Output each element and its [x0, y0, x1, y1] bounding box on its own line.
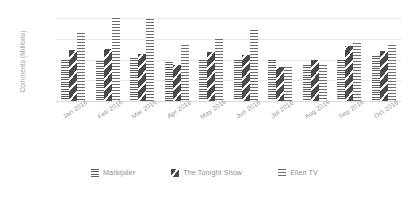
x-label-cell: Jun 2016: [229, 103, 264, 143]
x-axis-labels: Jan 2016Feb 2016Mar 2016Apr 2016May 2016…: [56, 103, 401, 143]
bar: [388, 45, 396, 101]
bar: [276, 67, 284, 101]
bar: [96, 61, 104, 101]
x-label-cell: Feb 2016: [91, 103, 126, 143]
bar: [242, 55, 250, 101]
gridline-baseline: [56, 101, 401, 102]
bar-group: [332, 18, 367, 101]
bar-group: [160, 18, 195, 101]
bar: [380, 51, 388, 101]
bar: [61, 60, 69, 102]
legend-item-0[interactable]: Markiplier: [91, 168, 135, 177]
x-label-cell: Mar 2016: [125, 103, 160, 143]
bar: [250, 30, 258, 101]
hatch-diagonal-swatch: [171, 169, 179, 177]
bar: [173, 65, 181, 101]
bar: [104, 49, 112, 101]
legend-label: Ellen TV: [290, 168, 318, 177]
bar-group: [263, 18, 298, 101]
bar: [165, 62, 173, 101]
x-label-cell: Jul 2016: [263, 103, 298, 143]
bar-chart: Comments (Millions) 100 0 Jan 2016Feb 20…: [0, 0, 409, 212]
x-label-cell: Jan 2016: [56, 103, 91, 143]
hatch-horizontal-swatch: [91, 169, 99, 177]
bar-group: [194, 18, 229, 101]
bar: [311, 60, 319, 102]
bar: [284, 67, 292, 101]
plot-area: [56, 18, 401, 101]
bar-groups: [56, 18, 401, 101]
bar: [345, 46, 353, 101]
legend-label: The Tonight Show: [183, 168, 242, 177]
bar: [268, 60, 276, 102]
bar: [138, 54, 146, 101]
legend-label: Markiplier: [103, 168, 135, 177]
bar: [372, 56, 380, 101]
bar-group: [56, 18, 91, 101]
bar: [303, 65, 311, 101]
x-label-cell: Apr 2016: [160, 103, 195, 143]
x-label-cell: May 2016: [194, 103, 229, 143]
bar: [215, 39, 223, 101]
bar-group: [298, 18, 333, 101]
legend-item-1[interactable]: The Tonight Show: [171, 168, 242, 177]
x-label-cell: Aug 2016: [298, 103, 333, 143]
bar: [234, 60, 242, 101]
bar: [353, 43, 361, 101]
bar-group: [125, 18, 160, 101]
bar-group: [367, 18, 402, 101]
x-label-cell: Oct 2016: [367, 103, 402, 143]
hatch-dotted-swatch: [278, 169, 286, 177]
bar: [69, 50, 77, 101]
bar: [337, 60, 345, 102]
bar: [319, 65, 327, 101]
bar: [130, 58, 138, 101]
bar: [181, 45, 189, 101]
y-axis-title: Comments (Millions): [19, 17, 26, 107]
bar-group: [229, 18, 264, 101]
chart-legend: MarkiplierThe Tonight ShowEllen TV: [0, 168, 409, 177]
bar-group: [91, 18, 126, 101]
bar: [207, 52, 215, 101]
bar: [199, 60, 207, 102]
bar: [77, 33, 85, 101]
bar: [146, 19, 154, 101]
legend-item-2[interactable]: Ellen TV: [278, 168, 318, 177]
x-label-cell: Sep 2016: [332, 103, 367, 143]
bar: [112, 18, 120, 101]
